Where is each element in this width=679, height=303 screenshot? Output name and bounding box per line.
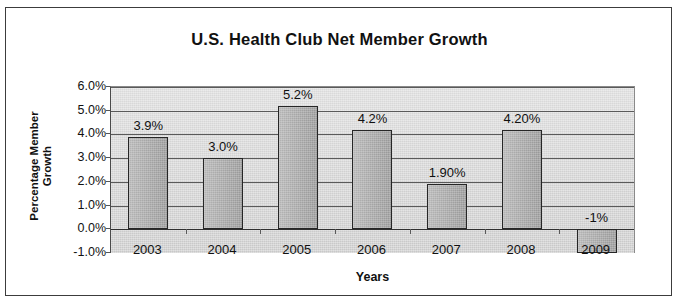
bar-slot: 5.2% [260,87,335,253]
bar-value-label: 4.20% [503,111,540,126]
bar-slot: 3.0% [186,87,261,253]
bar-value-label: 4.2% [358,111,388,126]
x-axis-tick-label: 2007 [432,242,461,257]
y-axis-tick-label: 2.0% [78,174,107,188]
bar-value-label: 3.0% [208,139,238,154]
bar-value-label: -1% [585,210,608,225]
y-axis-tick-label: 5.0% [78,103,107,117]
bar-slot: 4.20% [485,87,560,253]
y-axis-title: Percentage Member Growth [20,78,62,253]
bar-value-label: 1.90% [429,165,466,180]
bar-slot: -1% [559,87,634,253]
chart-title: U.S. Health Club Net Member Growth [6,30,673,49]
x-axis-tick-mark [634,229,635,234]
y-axis-title-text: Percentage Member Growth [28,111,54,220]
y-axis-tick-label: 6.0% [78,79,107,93]
bar-value-label: 5.2% [283,87,313,102]
x-axis-tick-label: 2008 [506,242,535,257]
x-axis-tick-label: 2005 [282,242,311,257]
y-axis-title-line-1: Percentage Member [28,111,40,220]
bar-slot: 3.9% [111,87,186,253]
bar-value-label: 3.9% [134,118,164,133]
bar-slot: 1.90% [410,87,485,253]
bar[interactable] [278,106,318,229]
x-axis-tick-label: 2004 [208,242,237,257]
bar[interactable] [427,184,467,229]
bar[interactable] [502,130,542,230]
y-axis-tick-label: 4.0% [78,126,107,140]
x-axis-title: Years [110,270,635,284]
y-axis-tick-labels: 6.0%5.0%4.0%3.0%2.0%1.0%0.0%-1.0% [58,86,110,260]
plot-area: 3.9%3.0%5.2%4.2%1.90%4.20%-1% [110,86,635,253]
chart-figure-frame: U.S. Health Club Net Member Growth Perce… [5,7,672,296]
bar-slot: 4.2% [335,87,410,253]
x-axis-tick-label: 2009 [581,242,610,257]
y-axis-title-line-2: Growth [41,145,53,185]
y-axis-tick-label: -1.0% [73,245,106,259]
x-axis-tick-label: 2006 [357,242,386,257]
x-axis-tick-labels: 2003200420052006200720082009 [110,242,635,262]
bar[interactable] [128,137,168,229]
x-axis-tick-label: 2003 [133,242,162,257]
y-axis-tick-label: 3.0% [78,150,107,164]
bar-series: 3.9%3.0%5.2%4.2%1.90%4.20%-1% [111,87,634,253]
y-axis-tick-label: 0.0% [78,221,107,235]
y-axis-tick-label: 1.0% [78,198,107,212]
bar[interactable] [203,158,243,229]
bar[interactable] [352,130,392,230]
